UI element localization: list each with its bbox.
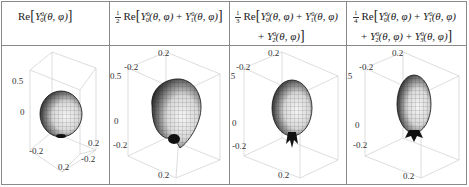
tick-x-left: -0.2 bbox=[113, 140, 127, 150]
plus: + bbox=[176, 10, 182, 22]
tick-z-top: 0.5 bbox=[110, 71, 122, 81]
plot-cell-4: 0.2 -0.2 0.5 0 -0.2 0.2 bbox=[347, 46, 467, 185]
tick-top-left: -0.2 bbox=[124, 62, 138, 72]
column-header-3: 13Re[Y00(θ, φ) + Y01(θ, φ) + Y02(θ, φ)] bbox=[230, 2, 346, 45]
tick-x-left: -0.2 bbox=[232, 141, 246, 151]
arguments: (θ, φ) bbox=[423, 30, 447, 42]
header-formula: Re[Y00(θ, φ)] bbox=[18, 6, 73, 27]
tick-z-top: 0.5 bbox=[347, 71, 353, 81]
arguments: (θ, φ) bbox=[314, 10, 338, 22]
spherical-harmonic-plot: 0.2 -0.2 0.5 0 -0.2 0.2 bbox=[347, 46, 467, 185]
denominator: 2 bbox=[115, 18, 121, 25]
arguments: (θ, φ) bbox=[432, 10, 456, 22]
spherical-harmonic-plot: 0.2 -0.2 0.5 0 -0.2 0.2 bbox=[110, 46, 229, 185]
plus: + bbox=[414, 10, 420, 22]
spherical-harmonic-plot: 0.2 -0.2 0.5 0 -0.2 0.2 bbox=[230, 46, 346, 185]
right-bracket: ] bbox=[448, 28, 453, 43]
plus: + bbox=[258, 30, 264, 42]
denominator: 3 bbox=[235, 18, 241, 25]
arguments: (θ, φ) bbox=[387, 10, 411, 22]
tick-top: 0.2 bbox=[392, 48, 403, 58]
tick-top-left: -0.2 bbox=[359, 62, 373, 72]
fraction: 13 bbox=[235, 10, 241, 25]
tick-x-bottom: 0.2 bbox=[278, 170, 289, 180]
figure-table: Re[Y00(θ, φ)] 12Re[Y00(θ, φ) + Y01(θ, φ)… bbox=[1, 1, 467, 185]
header-formula-line-1: 14Re[Y00(θ, φ) + Y01(θ, φ) bbox=[353, 6, 456, 27]
plus: + bbox=[296, 10, 302, 22]
plus: + bbox=[361, 30, 367, 42]
re-operator: Re bbox=[362, 10, 374, 22]
arguments: (θ, φ) bbox=[269, 10, 293, 22]
tick-x-bottom: 0.2 bbox=[403, 171, 414, 181]
right-bracket: ] bbox=[218, 8, 223, 23]
plot-cell-2: 0.2 -0.2 0.5 0 -0.2 0.2 bbox=[110, 46, 229, 185]
arguments: (θ, φ) bbox=[379, 30, 403, 42]
tick-x-left: -0.2 bbox=[29, 146, 43, 156]
re-operator: Re bbox=[18, 10, 30, 22]
tick-top: 0.2 bbox=[268, 48, 279, 58]
tick-y-bottom: -0.2 bbox=[81, 154, 95, 164]
plot-cell-3: 0.2 -0.2 0.5 0 -0.2 0.2 bbox=[230, 46, 346, 185]
plot-cell-1: 0.5 0 -0.2 0.2 0.2 -0.2 bbox=[2, 46, 109, 185]
tick-z-mid: 0 bbox=[232, 118, 237, 128]
header-formula: 12Re[Y00(θ, φ) + Y01(θ, φ)] bbox=[115, 6, 223, 27]
tick-z-top: 0.5 bbox=[12, 76, 24, 86]
fraction: 12 bbox=[115, 10, 121, 25]
denominator: 4 bbox=[353, 18, 359, 25]
column-header-1: Re[Y00(θ, φ)] bbox=[2, 2, 109, 45]
header-formula-line-1: 13Re[Y00(θ, φ) + Y01(θ, φ) bbox=[235, 6, 338, 27]
tick-top: 0.2 bbox=[158, 48, 169, 58]
tick-y-top: 0.2 bbox=[88, 138, 99, 148]
arguments: (θ, φ) bbox=[149, 10, 173, 22]
re-operator: Re bbox=[124, 10, 136, 22]
tick-x-bottom: 0.2 bbox=[158, 170, 169, 180]
arguments: (θ, φ) bbox=[194, 10, 218, 22]
tick-z-mid: 0 bbox=[20, 107, 25, 117]
tick-top-left: -0.2 bbox=[236, 62, 250, 72]
right-bracket: ] bbox=[68, 8, 73, 23]
tick-z-mid: 0 bbox=[114, 116, 119, 126]
arguments: (θ, φ) bbox=[276, 30, 300, 42]
plus: + bbox=[406, 30, 412, 42]
spherical-harmonic-plot: 0.5 0 -0.2 0.2 0.2 -0.2 bbox=[2, 46, 109, 185]
tick-x-left: -0.2 bbox=[353, 140, 367, 150]
re-operator: Re bbox=[244, 10, 256, 22]
fraction: 14 bbox=[353, 10, 359, 25]
tick-z-mid: 0 bbox=[355, 120, 360, 130]
right-bracket: ] bbox=[300, 28, 305, 43]
tick-x-bottom: 0.2 bbox=[58, 162, 69, 172]
lobe bbox=[286, 132, 298, 148]
column-header-2: 12Re[Y00(θ, φ) + Y01(θ, φ)] bbox=[110, 2, 229, 45]
tick-z-top: 0.5 bbox=[230, 71, 236, 81]
header-formula-line-2: + Y02(θ, φ) + Y03(θ, φ)] bbox=[361, 26, 452, 47]
arguments: (θ, φ) bbox=[44, 10, 68, 22]
header-formula-line-2: + Y02(θ, φ)] bbox=[258, 26, 305, 47]
column-header-4: 14Re[Y00(θ, φ) + Y01(θ, φ) + Y02(θ, φ) +… bbox=[347, 2, 467, 45]
